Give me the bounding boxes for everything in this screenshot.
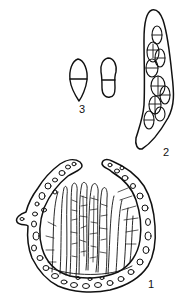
- figure-1-label: 1: [148, 279, 154, 290]
- figure-1-ascoma: [0, 0, 180, 301]
- hymenium: [46, 182, 138, 277]
- illustration-plate: 3: [0, 0, 180, 301]
